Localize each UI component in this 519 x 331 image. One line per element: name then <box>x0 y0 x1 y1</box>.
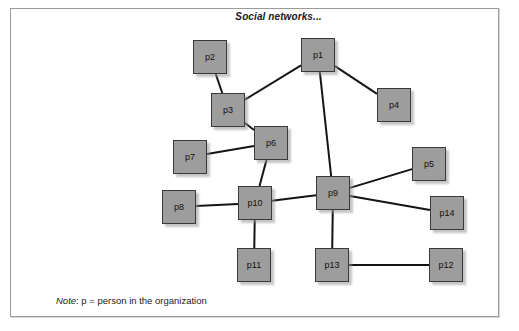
graph-node-p1[interactable]: p1 <box>301 38 335 72</box>
graph-node-p6[interactable]: p6 <box>254 126 288 160</box>
graph-node-p13[interactable]: p13 <box>315 248 349 282</box>
figure-container: Social networks... p1p2p3p4p5p6p7p8p9p10… <box>0 0 519 331</box>
graph-node-label: p11 <box>247 261 261 270</box>
figure-note-label: Note <box>56 295 76 306</box>
graph-node-p4[interactable]: p4 <box>377 88 411 122</box>
graph-node-label: p14 <box>439 209 454 218</box>
graph-node-label: p1 <box>313 51 323 60</box>
network-graph-nodes: p1p2p3p4p5p6p7p8p9p10p11p12p13p14 <box>0 0 519 331</box>
figure-note-text: : p = person in the organization <box>76 295 207 306</box>
graph-node-label: p12 <box>438 261 453 270</box>
figure-note: Note: p = person in the organization <box>56 295 207 306</box>
graph-node-label: p8 <box>174 203 184 212</box>
graph-node-label: p9 <box>328 189 338 198</box>
graph-node-p5[interactable]: p5 <box>412 147 446 181</box>
graph-node-p8[interactable]: p8 <box>162 190 196 224</box>
graph-node-label: p10 <box>247 199 262 208</box>
graph-node-label: p13 <box>324 261 339 270</box>
graph-node-p9[interactable]: p9 <box>316 176 350 210</box>
graph-node-p2[interactable]: p2 <box>193 40 227 74</box>
graph-node-p7[interactable]: p7 <box>173 140 207 174</box>
graph-node-p10[interactable]: p10 <box>238 186 272 220</box>
graph-node-label: p3 <box>223 106 233 115</box>
graph-node-p3[interactable]: p3 <box>211 93 245 127</box>
graph-node-label: p6 <box>266 139 276 148</box>
graph-node-p12[interactable]: p12 <box>429 248 463 282</box>
graph-node-p11[interactable]: p11 <box>237 248 271 282</box>
graph-node-p14[interactable]: p14 <box>430 196 464 230</box>
graph-node-label: p2 <box>205 53 215 62</box>
graph-node-label: p5 <box>424 160 434 169</box>
graph-node-label: p7 <box>185 153 195 162</box>
graph-node-label: p4 <box>389 101 399 110</box>
